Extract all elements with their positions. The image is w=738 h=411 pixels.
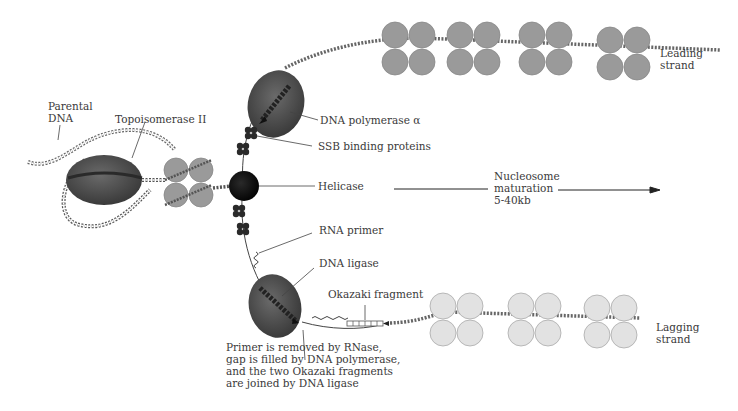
lagging-nucleosomes [430, 293, 637, 348]
label-rna-primer: RNA primer [319, 224, 383, 236]
label-primer-note: Primer is removed by RNase, gap is fille… [226, 341, 400, 389]
label-dna-polymerase: DNA polymerase α [320, 114, 420, 126]
label-parental-dna: Parental DNA [48, 100, 93, 124]
label-okazaki: Okazaki fragment [328, 288, 423, 300]
leading-nucleosomes [382, 22, 650, 80]
label-topoisomerase: Topoisomerase II [115, 113, 206, 125]
dna-ligase [242, 268, 309, 343]
label-leading-strand: Leading strand [660, 47, 703, 71]
label-dna-ligase: DNA ligase [319, 257, 379, 269]
helicase [229, 171, 259, 201]
label-lagging-strand: Lagging strand [656, 321, 700, 345]
label-nucleosome-maturation: Nucleosome maturation 5-40kb [494, 170, 560, 206]
label-ssb: SSB binding proteins [318, 140, 431, 152]
replication-fork-diagram: Parental DNA Topoisomerase II DNA polyme… [0, 0, 738, 411]
leading-strand-dna [285, 38, 720, 68]
dna-polymerase-alpha [240, 64, 312, 144]
parental-nucleosome [164, 158, 213, 207]
rna-primer [254, 252, 258, 268]
label-helicase: Helicase [318, 180, 364, 192]
topoisomerase-ii [66, 155, 142, 205]
